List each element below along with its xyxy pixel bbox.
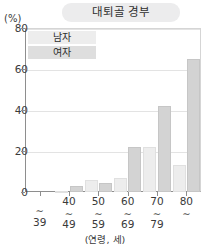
bar-male-2 — [85, 180, 98, 192]
y-tick-mark-80 — [21, 28, 25, 29]
legend-item-female: 여자 — [28, 46, 96, 59]
legend-item-male: 남자 — [28, 31, 96, 44]
bar-female-5 — [187, 59, 200, 192]
bar-female-2 — [99, 183, 112, 192]
gridline-20 — [26, 152, 200, 153]
bar-female-3 — [128, 147, 141, 192]
y-tick-mark-60 — [21, 69, 25, 70]
gridline-40 — [26, 111, 200, 112]
bar-male-3 — [114, 178, 127, 192]
y-tick-mark-20 — [21, 151, 25, 152]
x-axis-unit-label: (연령, 세) — [0, 232, 210, 246]
bar-male-1 — [55, 191, 68, 193]
bar-female-4 — [158, 106, 171, 192]
bar-male-5 — [173, 165, 186, 192]
legend-label-female: 여자 — [28, 46, 96, 59]
gridline-60 — [26, 70, 200, 71]
x-tick-mark-0 — [40, 192, 41, 196]
legend-label-male: 남자 — [28, 31, 96, 44]
y-tick-mark-0 — [21, 192, 25, 193]
chart-title: 대퇴골 경부 — [62, 4, 180, 21]
gridline-80 — [26, 29, 200, 30]
bar-male-4 — [143, 147, 156, 192]
bar-female-1 — [70, 186, 83, 192]
chart-legend: 남자 여자 — [28, 31, 96, 61]
chart-figure: 대퇴골 경부 (%) 020406080 ∼3940∼4950∼5960∼697… — [0, 0, 210, 250]
x-tick-label-5: 80∼ — [166, 196, 206, 219]
y-tick-mark-40 — [21, 110, 25, 111]
